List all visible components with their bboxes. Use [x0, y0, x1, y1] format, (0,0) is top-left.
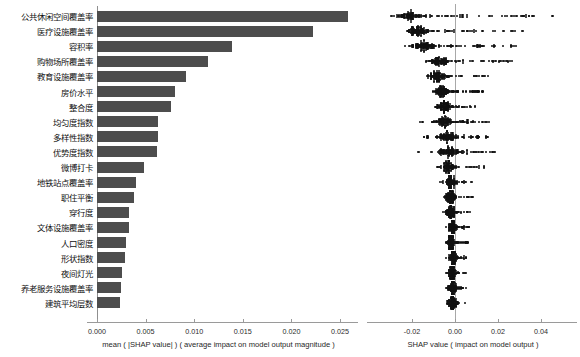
beeswarm-point — [451, 308, 453, 310]
beeswarm-point — [465, 241, 467, 243]
beeswarm-row — [365, 114, 580, 129]
bar-row: 整合度 — [97, 101, 340, 112]
beeswarm-point — [533, 15, 535, 17]
beeswarm-point — [483, 60, 485, 62]
x-tick-label: 0.005 — [137, 327, 155, 336]
bar-row: 建筑平均层数 — [97, 297, 340, 308]
beeswarm-point — [465, 272, 467, 274]
beeswarm-point — [465, 287, 467, 289]
beeswarm-point — [451, 45, 453, 47]
beeswarm-point — [447, 110, 449, 112]
beeswarm-point — [462, 287, 464, 289]
beeswarm-point — [468, 226, 470, 228]
beeswarm-point — [452, 247, 454, 249]
beeswarm-point — [471, 90, 473, 92]
beeswarm-row — [365, 144, 580, 159]
beeswarm-point — [411, 46, 413, 48]
beeswarm-point — [478, 167, 480, 169]
bar-value-rect — [97, 116, 158, 127]
beeswarm-point — [465, 90, 467, 92]
bar-category-label: 养老服务设施覆盖率 — [21, 282, 93, 294]
beeswarm-point — [425, 49, 427, 51]
beeswarm-point — [436, 63, 438, 65]
beeswarm-point — [501, 15, 503, 17]
beeswarm-point — [438, 46, 440, 48]
beeswarm-point — [478, 121, 480, 123]
bar-row: 人口密度 — [97, 237, 340, 248]
beeswarm-x-axis-line — [367, 322, 577, 323]
beeswarm-point — [448, 216, 450, 218]
beeswarm-row — [365, 280, 580, 295]
beeswarm-point — [420, 45, 422, 47]
bar-row: 夜间灯光 — [97, 267, 340, 278]
beeswarm-point — [474, 106, 476, 108]
beeswarm-point — [423, 136, 425, 138]
bar-value-rect — [97, 267, 122, 278]
beeswarm-point — [410, 17, 412, 19]
beeswarm-row — [365, 235, 580, 250]
bar-value-rect — [97, 252, 125, 263]
beeswarm-point — [460, 45, 462, 47]
beeswarm-row — [365, 265, 580, 280]
bar-row: 养老服务设施覆盖率 — [97, 282, 340, 293]
beeswarm-point — [462, 241, 464, 243]
shap-beeswarm-chart: -0.020.000.020.04 SHAP value ( impact on… — [365, 0, 580, 357]
beeswarm-row — [365, 24, 580, 39]
beeswarm-point — [472, 60, 474, 62]
beeswarm-point — [391, 15, 393, 17]
beeswarm-point — [487, 75, 489, 77]
beeswarm-point — [443, 166, 445, 168]
bar-category-label: 房价水平 — [61, 86, 93, 98]
bar-category-label: 公共休闲空间覆盖率 — [21, 10, 93, 22]
beeswarm-point — [458, 257, 460, 259]
beeswarm-point — [440, 45, 442, 47]
bar-row: 均匀度指数 — [97, 116, 340, 127]
beeswarm-point — [442, 62, 444, 64]
bar-category-label: 建筑平均层数 — [45, 297, 93, 309]
bar-category-label: 穿行度 — [69, 206, 93, 218]
beeswarm-point — [416, 34, 418, 36]
beeswarm-point — [515, 45, 517, 47]
beeswarm-row — [365, 39, 580, 54]
beeswarm-row — [365, 129, 580, 144]
beeswarm-point — [441, 136, 443, 138]
beeswarm-point — [493, 46, 495, 48]
beeswarm-point — [448, 257, 450, 259]
x-tick-mark — [146, 319, 147, 322]
beeswarm-point — [458, 75, 460, 77]
beeswarm-point — [446, 15, 448, 17]
beeswarm-point — [466, 106, 468, 108]
beeswarm-point — [446, 241, 448, 243]
beeswarm-point — [511, 60, 513, 62]
bar-value-rect — [97, 222, 129, 233]
beeswarm-point — [465, 257, 467, 259]
beeswarm-point — [461, 106, 463, 108]
beeswarm-point — [477, 90, 479, 92]
beeswarm-point — [457, 287, 459, 289]
beeswarm-point — [433, 30, 435, 32]
beeswarm-point — [438, 65, 440, 67]
bar-row: 医疗设施覆盖率 — [97, 26, 340, 37]
x-tick-mark — [541, 319, 542, 322]
beeswarm-point — [461, 30, 463, 32]
bar-category-label: 均匀度指数 — [53, 116, 93, 128]
beeswarm-point — [488, 121, 490, 123]
bar-value-rect — [97, 207, 129, 218]
x-tick-mark — [455, 319, 456, 322]
beeswarm-point — [415, 31, 417, 33]
x-tick-mark — [498, 319, 499, 322]
beeswarm-point — [502, 45, 504, 47]
beeswarm-point — [441, 181, 443, 183]
beeswarm-point — [446, 200, 448, 202]
bar-row: 形状指数 — [97, 252, 340, 263]
beeswarm-point — [483, 45, 485, 47]
bar-value-rect — [97, 297, 120, 308]
beeswarm-point — [443, 45, 445, 47]
x-tick-mark — [243, 319, 244, 322]
bar-row: 微博打卡 — [97, 162, 340, 173]
x-tick-mark — [340, 319, 341, 322]
beeswarm-point — [445, 257, 447, 259]
x-tick-label: 0.025 — [331, 327, 349, 336]
beeswarm-point — [481, 30, 483, 32]
beeswarm-row — [365, 190, 580, 205]
